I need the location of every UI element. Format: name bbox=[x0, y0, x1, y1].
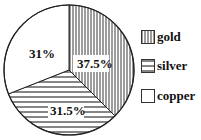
copper-pct-label: 31% bbox=[29, 46, 55, 61]
copper-swatch-icon bbox=[141, 89, 155, 103]
legend-item-copper: copper bbox=[141, 88, 195, 104]
silver-swatch-icon bbox=[141, 59, 155, 73]
legend-label-silver: silver bbox=[157, 58, 187, 74]
silver-pct-label: 31.5% bbox=[50, 103, 86, 118]
gold-pct-label: 37.5% bbox=[77, 56, 113, 71]
legend-label-gold: gold bbox=[157, 29, 181, 45]
gold-swatch-icon bbox=[141, 30, 155, 44]
legend-item-silver: silver bbox=[141, 58, 187, 74]
legend-label-copper: copper bbox=[157, 88, 195, 104]
legend-item-gold: gold bbox=[141, 29, 181, 45]
